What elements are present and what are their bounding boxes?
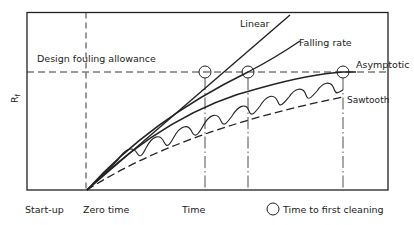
y-axis-label-subscript: f — [14, 93, 22, 96]
sawtooth-curve — [87, 83, 343, 190]
svg-text:Rf: Rf — [9, 93, 22, 103]
zero-time-label: Zero time — [83, 204, 130, 215]
y-axis-label: Rf — [9, 93, 22, 103]
time-label: Time — [181, 204, 205, 215]
falling-rate-label: Falling rate — [299, 37, 352, 48]
fouling-diagram: Design fouling allowance Linear Falling … — [0, 0, 414, 225]
sawtooth-label: Sawtooth — [347, 95, 389, 105]
legend-label: Time to first cleaning — [282, 204, 384, 215]
startup-label: Start-up — [25, 204, 64, 215]
asymptotic-curve — [87, 72, 356, 190]
sawtooth-mean-line — [87, 97, 343, 190]
design-fouling-label: Design fouling allowance — [37, 53, 156, 64]
legend-circle-icon — [267, 203, 279, 215]
linear-curve — [87, 15, 290, 190]
linear-label: Linear — [240, 18, 270, 29]
asymptotic-label: Asymptotic — [356, 59, 409, 70]
